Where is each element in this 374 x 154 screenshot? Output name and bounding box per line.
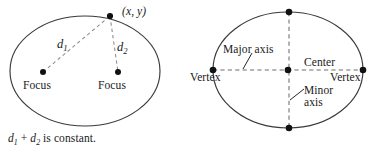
major-axis-label: Major axis	[223, 44, 274, 56]
center-dot	[285, 67, 292, 74]
center-label: Center	[304, 57, 335, 69]
distance-line-d1	[43, 16, 110, 72]
minor-axis-leader-line	[290, 89, 304, 100]
vertex-left-label: Vertex	[190, 72, 221, 84]
geometry-figure: (x, y) d1 d2 Focus Focus d1 + d2 is cons…	[0, 0, 374, 154]
distance-d1-label: d1	[57, 38, 68, 53]
left-ellipse-outline	[10, 16, 160, 126]
d2-subscript: 2	[123, 46, 127, 56]
point-xy-label: (x, y)	[122, 6, 146, 18]
minor-axis-label: Minoraxis	[304, 84, 333, 108]
left-ellipse-group	[10, 13, 160, 126]
co-vertex-top-dot	[286, 9, 293, 16]
co-vertex-bottom-dot	[286, 125, 293, 132]
d1-subscript: 1	[63, 43, 67, 53]
minor-axis-label-line2: axis	[304, 96, 323, 108]
distance-d2-label: d2	[117, 41, 128, 56]
focus-right-label: Focus	[98, 80, 126, 92]
figure-canvas	[0, 0, 374, 154]
focus-left-label: Focus	[23, 80, 51, 92]
right-ellipse-group	[210, 9, 367, 132]
focus-left-dot	[40, 69, 46, 75]
vertex-right-label: Vertex	[330, 72, 361, 84]
point-xy-dot	[107, 13, 113, 19]
caption-is-constant: is constant.	[40, 132, 96, 144]
minor-axis-label-line1: Minor	[304, 84, 333, 96]
caption-d1-plus-d2: d1 + d2 is constant.	[8, 133, 96, 147]
focus-right-dot	[115, 69, 121, 75]
caption-plus-sign: +	[18, 132, 31, 144]
